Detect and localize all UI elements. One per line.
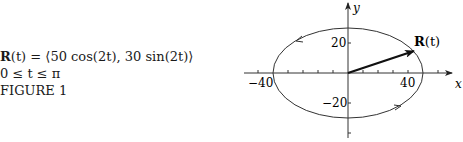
x-axis-label: x — [455, 77, 462, 91]
y-tick-label-neg20: −20 — [322, 96, 347, 110]
y-axis-label: y — [352, 1, 360, 15]
ellipse-plot: y x −40 40 20 −20 R(t) — [0, 0, 463, 142]
x-tick-label-40: 40 — [400, 76, 415, 90]
y-tick-label-20: 20 — [331, 36, 346, 50]
position-vector-arrow — [348, 51, 414, 73]
direction-arrow-icon — [394, 105, 401, 110]
vector-label: R(t) — [414, 34, 440, 49]
x-tick-label-neg40: −40 — [248, 76, 273, 90]
